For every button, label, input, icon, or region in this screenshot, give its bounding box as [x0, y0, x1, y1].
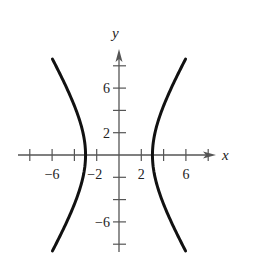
x-tick-label: 6 — [182, 167, 189, 182]
x-tick-label: −6 — [45, 167, 60, 182]
y-tick-label: 6 — [103, 81, 110, 96]
x-tick-label: −2 — [87, 167, 102, 182]
y-tick-label: 2 — [103, 126, 110, 141]
hyperbola-plot: −6−22662−6 x y — [0, 0, 265, 259]
y-axis-label: y — [110, 25, 119, 41]
y-tick-label: −6 — [95, 215, 110, 230]
x-axis-label: x — [221, 147, 229, 163]
x-tick-label: 2 — [138, 167, 145, 182]
